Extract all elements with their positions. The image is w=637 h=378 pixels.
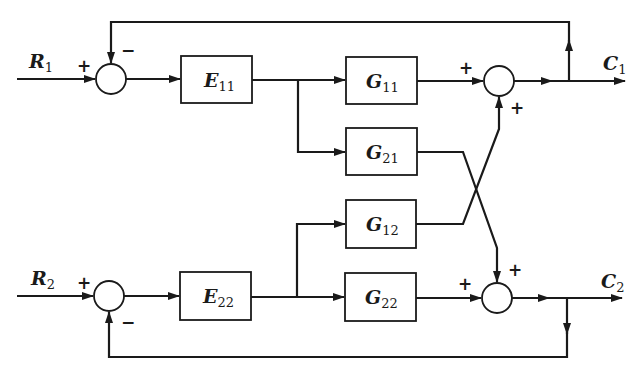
s1-minus-sign: −	[121, 40, 135, 60]
c2-label: C2	[601, 270, 624, 295]
summing-junction-4	[482, 283, 512, 313]
block-diagram: R1 + − E11 G11 G21 + + C1 R2 + − E22 G1	[0, 0, 637, 378]
c1-label: C1	[603, 52, 626, 77]
c1-feedback-line	[111, 22, 569, 63]
r2-label: R2	[30, 267, 55, 292]
s2-minus-sign: −	[121, 312, 135, 332]
r1-label: R1	[28, 50, 53, 75]
s4-plus-top-sign: +	[508, 260, 522, 280]
s3-plus-left-sign: +	[459, 58, 473, 78]
s3-plus-bottom-sign: +	[510, 98, 524, 118]
g21-to-s4-line	[417, 152, 497, 282]
c2-feedback-line	[109, 312, 567, 357]
summing-junction-2	[94, 281, 124, 311]
e22-to-g12-line	[297, 224, 345, 297]
summing-junction-3	[484, 66, 514, 96]
s4-plus-left-sign: +	[458, 274, 472, 294]
s2-plus-sign: +	[77, 273, 91, 293]
summing-junction-1	[96, 64, 126, 94]
s1-plus-sign: +	[77, 56, 91, 76]
e11-to-g21-line	[298, 80, 345, 152]
g12-to-s3-line	[416, 97, 499, 224]
